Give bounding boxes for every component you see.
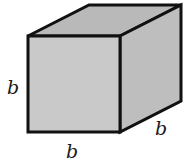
cube-drawing (0, 0, 188, 165)
cube-diagram: b b b (0, 0, 188, 165)
depth-edge-label: b (155, 119, 167, 138)
left-edge-label: b (7, 78, 19, 97)
bottom-edge-label: b (66, 142, 78, 161)
cube-front-face (28, 36, 120, 132)
